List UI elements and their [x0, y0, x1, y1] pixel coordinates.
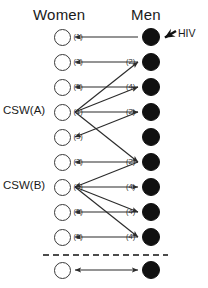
female-node-count: (3): [74, 157, 83, 166]
female-node: [54, 154, 71, 171]
female-node-count: (3): [74, 182, 83, 191]
male-node: [142, 178, 160, 196]
edge-layer: [0, 0, 208, 288]
female-node-count: (5): [74, 232, 83, 241]
male-node: [142, 128, 160, 146]
male-node-count: (4): [126, 207, 135, 216]
group-label-cswb: CSW(B): [3, 179, 45, 191]
female-node: [54, 129, 71, 146]
female-node: [54, 179, 71, 196]
female-node-count: (3): [74, 132, 83, 141]
hiv-label: HIV: [178, 27, 196, 39]
transmission-network-figure: Women Men (1)(3)(5)(1)CSW(A)(3)(3)(3)CSW…: [0, 0, 208, 288]
female-node: [54, 79, 71, 96]
female-node: [54, 29, 71, 46]
female-node: [54, 262, 71, 279]
male-node: [142, 78, 160, 96]
male-node: [142, 261, 160, 279]
male-node-count: (2): [126, 57, 135, 66]
female-node: [54, 229, 71, 246]
male-node: [142, 53, 160, 71]
female-node-count: (5): [74, 207, 83, 216]
male-node-count: (4): [126, 232, 135, 241]
male-node-count: (4): [126, 82, 135, 91]
male-node-count: (2): [126, 107, 135, 116]
male-node: [142, 203, 160, 221]
female-node-count: (5): [74, 82, 83, 91]
female-node: [54, 104, 71, 121]
male-node: [142, 153, 160, 171]
female-node-count: (3): [74, 57, 83, 66]
column-header-men: Men: [131, 6, 161, 23]
male-node: [142, 103, 160, 121]
female-node-count: (1): [74, 32, 83, 41]
male-node-count: (2): [126, 157, 135, 166]
male-node-count: (4): [126, 182, 135, 191]
transmission-edge: [75, 112, 138, 162]
column-header-women: Women: [33, 6, 85, 23]
female-node: [54, 204, 71, 221]
female-node: [54, 54, 71, 71]
male-node: [142, 28, 160, 46]
hiv-source-arrow-icon: [165, 31, 176, 38]
female-node-count: (1): [74, 107, 83, 116]
group-label-cswa: CSW(A): [3, 104, 45, 116]
male-node: [142, 228, 160, 246]
